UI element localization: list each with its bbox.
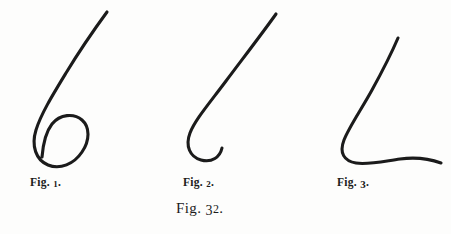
plate-caption-period: . — [219, 200, 223, 216]
plate-caption-word: Fig. — [176, 200, 201, 216]
fig-3-stroke — [342, 38, 441, 164]
figure-3-caption-period: . — [366, 176, 369, 188]
figure-2-caption: Fig. 2. — [183, 177, 214, 189]
figure-2-caption-period: . — [211, 176, 214, 188]
figure-3-caption-word: Fig. — [337, 176, 357, 188]
figure-3-caption: Fig. 3. — [337, 177, 369, 189]
figure-panel-3 — [300, 0, 451, 200]
figure-1-caption: Fig. 1. — [30, 177, 61, 189]
plate-caption: Fig. 32. — [176, 201, 224, 216]
figure-2-caption-word: Fig. — [183, 176, 203, 188]
plate-caption-number: 32 — [206, 201, 220, 216]
figure-2-caption-number: 2 — [206, 180, 211, 189]
figure-1-caption-period: . — [58, 176, 61, 188]
figure-1-caption-number: 1 — [53, 180, 58, 189]
fig-3-curve — [0, 0, 451, 200]
figure-plate: Fig. 1. Fig. 2. Fig. 3. Fig. 32. — [0, 0, 451, 234]
figure-1-caption-word: Fig. — [30, 176, 50, 188]
figure-3-caption-number: 3 — [360, 179, 366, 190]
